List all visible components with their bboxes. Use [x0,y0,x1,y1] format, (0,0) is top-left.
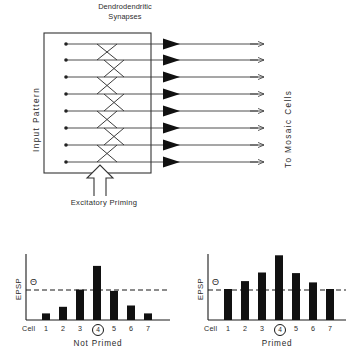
bar-cell-7 [144,313,152,320]
chart-not-primed-condition-label: Not Primed [26,339,170,348]
chart-primed-condition-label: Primed [208,339,346,348]
xtick-7: 7 [142,324,154,333]
excitatory-priming-arrow [87,165,113,196]
chart-primed-threshold-symbol: Θ [212,278,219,287]
xtick-6: 6 [307,324,319,333]
xtick-4-highlighted: 4 [274,324,286,336]
xtick-3: 3 [256,324,268,333]
bar-cell-1 [224,289,232,320]
network-diagram [0,0,359,240]
xtick-2: 2 [57,324,69,333]
xtick-5: 5 [290,324,302,333]
chart-not-primed: EPSP Θ Cell 1 2 3 4 5 6 7 Not Primed [4,242,180,357]
crossing-6 [104,128,124,145]
output-arrowheads [163,39,180,168]
chart-not-primed-cell-word: Cell [22,324,35,333]
input-channels [66,44,258,162]
crossing-1 [97,44,117,60]
bar-cell-1 [42,313,50,320]
crossing-7 [97,145,117,162]
input-terminal-dots [64,42,68,164]
bar-cell-4 [93,266,101,320]
bars [42,266,152,320]
xtick-3: 3 [74,324,86,333]
crossing-5 [97,111,117,128]
xtick-5: 5 [108,324,120,333]
mosaic-output-arrows [250,44,264,162]
bar-cell-3 [258,273,266,321]
bar-cell-5 [110,291,118,320]
xtick-1: 1 [222,324,234,333]
crossing-4 [104,94,124,111]
bar-cell-2 [59,307,67,320]
bar-cell-6 [309,282,317,320]
bar-cell-6 [127,306,135,321]
chart-primed-ylabel: EPSP [196,278,205,300]
xtick-7: 7 [324,324,336,333]
bar-cell-5 [292,273,300,320]
chart-not-primed-threshold-symbol: Θ [30,278,37,287]
bar-cell-7 [326,289,334,320]
chart-primed: EPSP Θ Cell 1 2 3 4 5 6 7 Primed [186,242,356,357]
figure-root: Dendrodendritic Synapses Input Pattern T… [0,0,359,357]
network-box [44,33,151,173]
bars [224,255,334,320]
xtick-1: 1 [40,324,52,333]
crossing-3 [97,77,117,94]
xtick-2: 2 [239,324,251,333]
bar-cell-2 [241,281,249,320]
crossing-2 [104,60,124,77]
bar-cell-4 [275,255,283,320]
chart-primed-cell-word: Cell [204,324,217,333]
xtick-6: 6 [125,324,137,333]
chart-not-primed-ylabel: EPSP [14,278,23,300]
bar-cell-3 [76,290,84,320]
dendrodendritic-crossings [97,44,124,162]
xtick-4-highlighted: 4 [92,324,104,336]
